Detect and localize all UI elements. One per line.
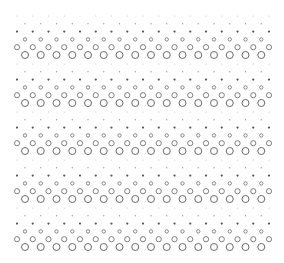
ring-mark <box>197 230 200 233</box>
ring-mark <box>235 45 240 50</box>
dot-mark <box>229 215 230 216</box>
ring-mark <box>30 93 35 98</box>
dot-mark <box>158 127 160 129</box>
ring-mark <box>102 134 105 137</box>
ring-mark <box>109 93 114 98</box>
dot-mark <box>79 15 80 16</box>
ring-mark <box>260 182 263 185</box>
ring-mark <box>71 182 74 185</box>
dot-circle-pattern <box>0 0 284 263</box>
ring-mark <box>242 148 249 155</box>
ring-mark <box>251 237 256 242</box>
dot-mark <box>142 63 143 64</box>
dot-mark <box>261 23 262 24</box>
ring-mark <box>172 45 177 50</box>
dot-mark <box>221 111 222 112</box>
dot-mark <box>173 79 175 81</box>
ring-mark <box>260 86 263 89</box>
ring-mark <box>181 182 184 185</box>
dot-mark <box>126 175 128 177</box>
ring-mark <box>23 38 26 41</box>
ring-mark <box>102 230 105 233</box>
ring-mark <box>235 141 240 146</box>
dot-mark <box>24 23 25 24</box>
ring-mark <box>203 45 208 50</box>
dot-mark <box>174 15 175 16</box>
dot-mark <box>95 207 96 208</box>
dot-mark <box>166 71 167 72</box>
dot-mark <box>253 159 254 160</box>
ring-mark <box>22 148 29 155</box>
ring-mark <box>203 93 208 98</box>
dot-mark <box>110 127 112 129</box>
ring-mark <box>134 230 137 233</box>
dot-mark <box>110 223 112 225</box>
dot-mark <box>72 167 73 168</box>
ring-mark <box>22 52 29 59</box>
dot-mark <box>142 207 143 208</box>
ring-mark <box>148 52 155 59</box>
ring-mark <box>165 38 168 41</box>
dot-mark <box>245 119 246 120</box>
dot-mark <box>182 119 183 120</box>
ring-mark <box>39 38 42 41</box>
pattern-band <box>14 15 271 58</box>
ring-mark <box>125 45 130 50</box>
dot-mark <box>221 159 222 160</box>
ring-mark <box>197 86 200 89</box>
ring-mark <box>53 196 60 203</box>
ring-mark <box>71 230 74 233</box>
ring-mark <box>55 38 58 41</box>
ring-mark <box>258 52 265 59</box>
ring-mark <box>109 45 114 50</box>
dot-mark <box>16 63 17 64</box>
pattern-band <box>14 207 271 250</box>
dot-mark <box>236 175 238 177</box>
dot-mark <box>95 223 97 225</box>
ring-mark <box>228 230 231 233</box>
ring-mark <box>242 100 249 107</box>
ring-mark <box>55 230 58 233</box>
dot-mark <box>72 215 73 216</box>
dot-mark <box>111 63 112 64</box>
ring-mark <box>39 182 42 185</box>
dot-mark <box>95 15 96 16</box>
ring-mark <box>226 52 233 59</box>
ring-mark <box>46 141 51 146</box>
ring-mark <box>118 86 121 89</box>
ring-mark <box>163 196 170 203</box>
ring-mark <box>219 45 224 50</box>
ring-mark <box>118 38 121 41</box>
dot-mark <box>261 167 262 168</box>
ring-mark <box>62 189 67 194</box>
ring-mark <box>23 182 26 185</box>
ring-mark <box>86 182 89 185</box>
ring-mark <box>77 237 82 242</box>
ring-mark <box>188 141 193 146</box>
ring-mark <box>244 38 247 41</box>
ring-mark <box>37 196 44 203</box>
ring-mark <box>156 141 161 146</box>
dot-mark <box>135 71 136 72</box>
ring-mark <box>219 93 224 98</box>
dot-mark <box>189 31 191 33</box>
ring-mark <box>116 148 123 155</box>
dot-mark <box>268 31 270 33</box>
dot-mark <box>174 111 175 112</box>
dot-mark <box>253 63 254 64</box>
dot-mark <box>237 207 238 208</box>
dot-mark <box>103 23 104 24</box>
ring-mark <box>195 52 202 59</box>
dot-mark <box>205 223 207 225</box>
ring-mark <box>71 86 74 89</box>
ring-mark <box>219 189 224 194</box>
ring-mark <box>14 93 19 98</box>
ring-mark <box>62 141 67 146</box>
ring-mark <box>266 93 271 98</box>
ring-mark <box>156 237 161 242</box>
ring-mark <box>197 182 200 185</box>
dot-mark <box>48 207 49 208</box>
dot-mark <box>24 167 25 168</box>
ring-mark <box>226 196 233 203</box>
dot-mark <box>221 175 223 177</box>
